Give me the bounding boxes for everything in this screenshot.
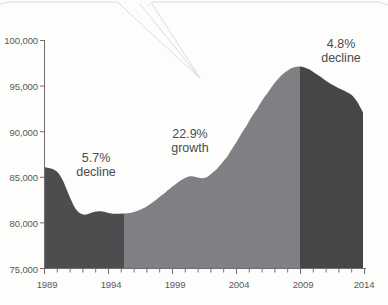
x-tick-label-1994: 1994: [101, 279, 122, 290]
y-tick-label-80000: 80,000: [4, 218, 38, 229]
x-tick-label-2009: 2009: [293, 279, 314, 290]
annotation-growth: 22.9% growth: [171, 128, 209, 155]
annotation-growth-direction: growth: [171, 142, 209, 156]
annotation-decline-2: 4.8% decline: [321, 38, 361, 65]
annotation-growth-percent: 22.9%: [171, 128, 209, 142]
area-segment-growth: [120, 66, 300, 268]
y-tick-label-75000: 75,000: [4, 264, 38, 275]
y-tick-label-95000: 95,000: [4, 81, 38, 92]
x-tick-label-2004: 2004: [229, 279, 250, 290]
y-tick-label-100000: 100,000: [4, 35, 38, 46]
y-tick-marks: [40, 41, 44, 269]
x-tick-label-1989: 1989: [37, 279, 58, 290]
area-segment-decline-1: [44, 167, 124, 268]
area-segment-decline-2: [296, 66, 363, 268]
annotation-decline-1-percent: 5.7%: [76, 152, 116, 166]
chart-container: 100,000 95,000 90,000 85,000 80,000 75,0…: [0, 0, 388, 305]
x-tick-label-1999: 1999: [165, 279, 186, 290]
annotation-decline-2-direction: decline: [321, 52, 361, 66]
annotation-decline-1: 5.7% decline: [76, 152, 116, 179]
y-tick-label-90000: 90,000: [4, 127, 38, 138]
annotation-decline-1-direction: decline: [76, 166, 116, 180]
y-tick-label-85000: 85,000: [4, 172, 38, 183]
x-tick-label-2014: 2014: [354, 279, 375, 290]
annotation-decline-2-percent: 4.8%: [321, 38, 361, 52]
